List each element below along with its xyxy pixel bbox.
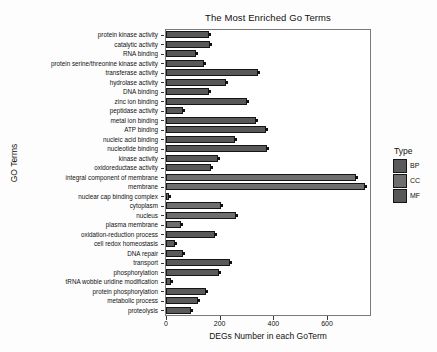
- bar[interactable]: [166, 307, 191, 314]
- bar[interactable]: [166, 31, 209, 38]
- y-axis-tick-label: protein serine/threonine kinase activity: [51, 59, 159, 69]
- y-axis-tick: [161, 120, 165, 121]
- bar-cap-marker: [197, 299, 200, 302]
- bar-row: [166, 154, 370, 164]
- bar-row: [166, 173, 370, 183]
- bar[interactable]: [166, 60, 204, 67]
- x-axis-title: DEGs Number in each GoTerm: [165, 331, 371, 341]
- legend-item[interactable]: BP: [393, 158, 437, 173]
- y-axis-tick-label: protein kinase activity: [98, 30, 159, 40]
- bar-row: [166, 59, 370, 69]
- y-axis-tick: [161, 130, 165, 131]
- bar-row: [166, 144, 370, 154]
- bar-row: [166, 268, 370, 278]
- bar-cap-marker: [355, 176, 358, 179]
- bar[interactable]: [166, 221, 181, 228]
- bar-cap-marker: [203, 62, 206, 65]
- bar-row: [166, 97, 370, 107]
- legend-items: BPCCMF: [393, 158, 437, 203]
- bar[interactable]: [166, 50, 196, 57]
- y-axis-tick-label: transport: [133, 258, 159, 268]
- bar-cap-marker: [266, 147, 269, 150]
- y-axis-tick: [161, 253, 165, 254]
- y-axis-tick: [161, 82, 165, 83]
- bar[interactable]: [166, 231, 215, 238]
- bar[interactable]: [166, 288, 206, 295]
- bar[interactable]: [166, 174, 356, 181]
- y-axis-tick-label: ATP binding: [124, 125, 159, 135]
- legend-item[interactable]: CC: [393, 173, 437, 188]
- legend-swatch: [393, 174, 407, 188]
- x-axis-tick-label: 0: [151, 320, 181, 327]
- bar[interactable]: [166, 79, 226, 86]
- legend-item[interactable]: MF: [393, 188, 437, 203]
- bar[interactable]: [166, 212, 236, 219]
- bar[interactable]: [166, 41, 210, 48]
- bar[interactable]: [166, 183, 365, 190]
- bar[interactable]: [166, 259, 230, 266]
- bar-cap-marker: [208, 90, 211, 93]
- legend-swatch: [393, 159, 407, 173]
- bar[interactable]: [166, 164, 211, 171]
- y-axis-tick-label: nuclear cap binding complex: [78, 192, 159, 202]
- bar-cap-marker: [210, 166, 213, 169]
- y-axis-tick: [161, 310, 165, 311]
- bar-cap-marker: [182, 109, 185, 112]
- bar-row: [166, 201, 370, 211]
- y-axis-tick: [161, 101, 165, 102]
- bar-row: [166, 306, 370, 316]
- y-axis-tick: [161, 158, 165, 159]
- bar-cap-marker: [225, 81, 228, 84]
- y-axis-tick: [161, 139, 165, 140]
- y-axis-tick-label: nucleic acid binding: [103, 135, 159, 145]
- bar-cap-marker: [364, 185, 367, 188]
- y-axis-tick: [161, 111, 165, 112]
- bar[interactable]: [166, 145, 267, 152]
- bar-row: [166, 49, 370, 59]
- y-axis-tick: [161, 215, 165, 216]
- y-axis-tick-label: cytoplasm: [130, 201, 159, 211]
- bar[interactable]: [166, 126, 266, 133]
- y-axis-tick: [161, 282, 165, 283]
- bar-cap-marker: [174, 242, 177, 245]
- bar[interactable]: [166, 69, 258, 76]
- bar[interactable]: [166, 202, 221, 209]
- bar-cap-marker: [257, 71, 260, 74]
- y-axis-tick-label: proteolysis: [128, 306, 159, 316]
- bar[interactable]: [166, 136, 235, 143]
- bar[interactable]: [166, 155, 218, 162]
- legend-title: Type: [393, 146, 437, 156]
- bar-cap-marker: [195, 52, 198, 55]
- legend: Type BPCCMF: [393, 146, 437, 203]
- bar-row: [166, 296, 370, 306]
- bar[interactable]: [166, 297, 198, 304]
- bar[interactable]: [166, 250, 183, 257]
- y-axis-tick-label: metal ion binding: [110, 116, 159, 126]
- bar[interactable]: [166, 107, 183, 114]
- y-axis-tick: [161, 149, 165, 150]
- bar-cap-marker: [170, 280, 173, 283]
- bar-cap-marker: [229, 261, 232, 264]
- bar-row: [166, 230, 370, 240]
- bar-row: [166, 30, 370, 40]
- bar-row: [166, 163, 370, 173]
- bar-cap-marker: [234, 138, 237, 141]
- bar-cap-marker: [220, 204, 223, 207]
- bar[interactable]: [166, 98, 247, 105]
- bar[interactable]: [166, 269, 219, 276]
- y-axis-tick: [161, 54, 165, 55]
- bar[interactable]: [166, 117, 256, 124]
- y-axis-tick: [161, 301, 165, 302]
- bar-row: [166, 211, 370, 221]
- y-axis-tick-label: nucleus: [136, 211, 159, 221]
- bar[interactable]: [166, 88, 209, 95]
- bar-row: [166, 258, 370, 268]
- bar-row: [166, 40, 370, 50]
- bar-row: [166, 135, 370, 145]
- bar-cap-marker: [182, 252, 185, 255]
- x-axis-tick-label: 600: [312, 320, 342, 327]
- y-axis-labels: protein kinase activitycatalytic activit…: [0, 30, 159, 315]
- bar-row: [166, 68, 370, 78]
- bar-cap-marker: [209, 43, 212, 46]
- y-axis-tick: [161, 92, 165, 93]
